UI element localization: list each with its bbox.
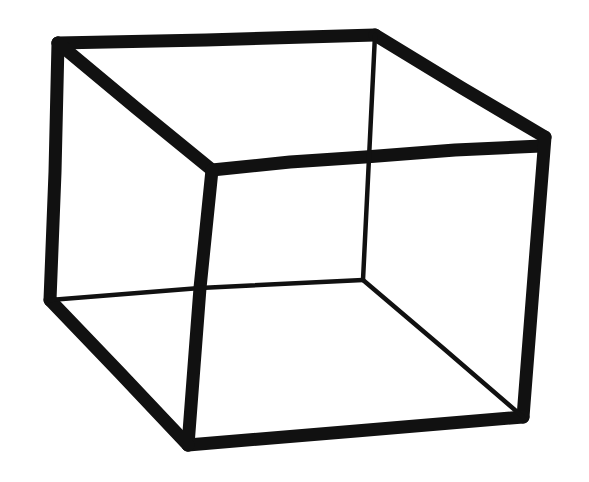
necker-cube-svg	[0, 0, 589, 482]
cube-edge-left-vertical-edge	[50, 43, 58, 300]
necker-cube-figure	[0, 0, 589, 482]
cube-edge-top-edge	[58, 35, 375, 43]
